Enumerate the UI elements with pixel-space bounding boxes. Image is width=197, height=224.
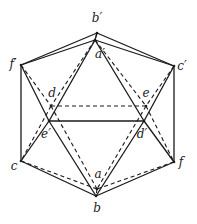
label-e: e (142, 86, 149, 100)
vertex-f (173, 161, 176, 164)
hidden-edge-f_prime-d (21, 65, 51, 106)
vertex-b (95, 195, 98, 198)
vertex-c (20, 160, 23, 163)
vertex-d (50, 105, 53, 108)
label-e-prime: e′ (41, 127, 51, 141)
label-c: c (11, 159, 18, 173)
label-a: a (94, 167, 101, 181)
vertex-a (96, 188, 99, 191)
label-f: f (178, 155, 186, 169)
label-d: d (48, 86, 56, 100)
label-d-prime: d′ (137, 127, 148, 141)
hidden-edge-d-a (51, 106, 97, 189)
edge-a_prime-f_prime (21, 40, 95, 65)
edge-d_prime-f (144, 121, 174, 162)
edge-a_prime-e_prime (49, 40, 95, 121)
label-f-prime: f′ (8, 57, 16, 71)
vertex-f_prime (20, 64, 23, 67)
edge-b_prime-c_prime (97, 33, 174, 66)
hidden-edge-e-f (146, 106, 174, 162)
label-a-prime: a′ (95, 47, 105, 61)
vertex-labels: b′ a′ f′ c′ d e e′ d′ c f a b (8, 11, 187, 215)
label-b-prime: b′ (92, 11, 103, 25)
edge-b_prime-f_prime (21, 33, 97, 65)
hidden-edge-e-a (97, 106, 146, 189)
vertex-b_prime (96, 32, 99, 35)
edge-f_prime-e_prime (21, 65, 49, 121)
label-b: b (93, 201, 101, 215)
vertex-e_prime (48, 120, 51, 123)
edge-a_prime-c_prime (95, 40, 174, 66)
vertex-e (145, 105, 148, 108)
icosahedron-diagram: b′ a′ f′ c′ d e e′ d′ c f a b (0, 0, 197, 224)
hidden-edge-c_prime-e (146, 66, 174, 106)
hidden-edge-c-a (21, 161, 97, 189)
vertex-a_prime (94, 39, 97, 42)
label-c-prime: c′ (177, 59, 187, 73)
vertex-c_prime (173, 65, 176, 68)
edge-f-b (96, 162, 174, 196)
vertex-d_prime (143, 120, 146, 123)
